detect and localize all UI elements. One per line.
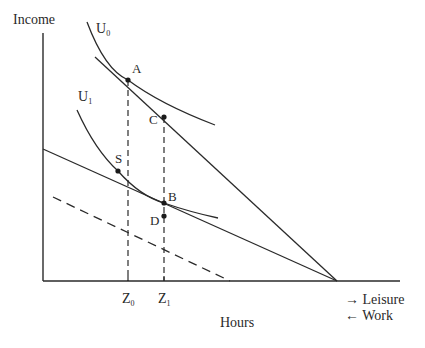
point-c-marker [161, 114, 166, 119]
point-b-marker [161, 200, 166, 205]
work-annotation: ← Work [345, 309, 393, 323]
budget-line-after [43, 149, 337, 281]
point-d-marker [161, 213, 166, 218]
tick-label-z0: Z0 [122, 292, 135, 308]
compensated-budget-line [53, 197, 230, 281]
point-label-d: D [150, 214, 159, 227]
budget-line-initial [95, 57, 337, 281]
arrow-left-icon: ← [345, 308, 359, 323]
point-a-marker [125, 77, 130, 82]
indifference-curve-u1 [77, 110, 218, 218]
work-label: Work [362, 308, 393, 323]
curve-label-u1: U1 [78, 90, 92, 106]
leisure-label: Leisure [363, 292, 405, 307]
point-label-c: C [149, 113, 158, 126]
curve-label-u0: U0 [96, 22, 110, 38]
y-axis-label: Income [13, 13, 55, 27]
x-axis-label: Hours [220, 316, 254, 330]
point-label-b: B [168, 190, 177, 203]
point-label-s: S [115, 152, 122, 165]
point-label-a: A [132, 62, 141, 75]
tick-label-z1: Z1 [158, 292, 171, 308]
arrow-right-icon: → [345, 292, 359, 307]
point-s-marker [115, 168, 120, 173]
leisure-annotation: → Leisure [345, 293, 404, 307]
